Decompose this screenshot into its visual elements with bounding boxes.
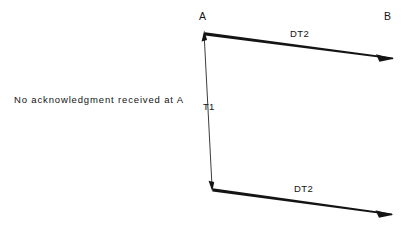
diagram-canvas: A B DT2 DT2 T1 No acknowledgment receive… <box>0 0 402 230</box>
t1-up-arrowhead-icon <box>202 31 208 42</box>
message-label-dt2-bottom: DT2 <box>294 184 313 194</box>
node-label-b: B <box>384 11 391 22</box>
node-label-a: A <box>199 11 206 22</box>
annotation-no-acknowledgment: No acknowledgment received at A <box>14 95 184 105</box>
diagram-vector-layer <box>0 0 402 230</box>
message-label-dt2-top: DT2 <box>290 29 309 39</box>
timer-label-t1: T1 <box>203 102 215 112</box>
